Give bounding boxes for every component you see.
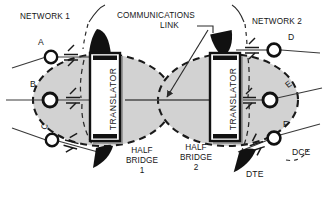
node-A-circle <box>45 51 57 63</box>
diagram-canvas: NETWORK 1 NETWORK 2 COMMUNICATIONS LINK … <box>0 0 328 198</box>
network2-label: NETWORK 2 <box>252 17 302 26</box>
node-F-circle <box>268 132 281 145</box>
communications-link-label-line1: COMMUNICATIONS <box>117 11 195 20</box>
node-C-circle <box>46 134 58 146</box>
translator-right-label: TRANSLATOR <box>229 57 239 141</box>
network1-leader-dash <box>83 24 88 49</box>
half-bridge-2-caption: HALF BRIDGE 2 <box>172 143 220 173</box>
half-bridge-1-line3: 1 <box>118 166 166 176</box>
network2-leader-dash <box>245 24 247 48</box>
node-E-circle <box>263 93 277 107</box>
dce-label: DCE <box>292 148 310 158</box>
dte-arrow-icon-bottom-left <box>93 146 113 168</box>
network2-leader <box>232 5 244 22</box>
half-bridge-2-line3: 2 <box>172 163 220 173</box>
half-bridge-2-line1: HALF <box>172 143 220 153</box>
network1-label: NETWORK 1 <box>20 12 70 21</box>
dte-label: DTE <box>246 170 264 180</box>
node-D-label: D <box>288 33 294 43</box>
half-bridge-1-caption: HALF BRIDGE 1 <box>118 146 166 176</box>
communications-link-label-line2: LINK <box>160 21 179 30</box>
half-bridge-1-line1: HALF <box>118 146 166 156</box>
half-bridge-1-line2: BRIDGE <box>118 156 166 166</box>
node-B-label: B <box>30 80 36 90</box>
translator-left-label: TRANSLATOR <box>109 57 119 141</box>
node-A-label: A <box>38 38 44 48</box>
half-bridge-2-line2: BRIDGE <box>172 153 220 163</box>
comm-link-leader-bracket <box>197 26 213 33</box>
node-D-circle <box>268 44 281 57</box>
node-F-label: F <box>283 120 288 130</box>
node-B-circle <box>43 93 57 107</box>
network1-leader <box>89 5 105 22</box>
